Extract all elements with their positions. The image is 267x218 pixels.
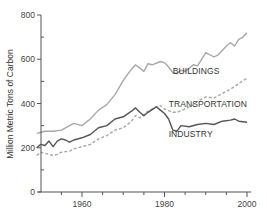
series-label-buildings: BUILDINGS xyxy=(173,66,220,76)
x-tick-label: 2000 xyxy=(238,199,257,209)
series-line-transportation xyxy=(37,78,247,155)
y-tick-label: 0 xyxy=(30,187,35,197)
y-tick-label: 800 xyxy=(21,10,35,20)
x-tick-label: 1960 xyxy=(73,199,92,209)
series-labels: BUILDINGSTRANSPORTATIONINDUSTRY xyxy=(169,66,247,139)
line-chart: 0200400600800196019802000 BUILDINGSTRANS… xyxy=(0,0,267,218)
axes: 0200400600800196019802000 xyxy=(21,10,257,209)
y-tick-label: 200 xyxy=(21,143,35,153)
x-tick-label: 1980 xyxy=(155,199,174,209)
series-line-industry xyxy=(37,107,247,148)
y-tick-label: 600 xyxy=(21,54,35,64)
series-label-transportation: TRANSPORTATION xyxy=(169,99,247,109)
series-label-industry: INDUSTRY xyxy=(169,129,213,139)
y-axis-label: Million Metric Tons of Carbon xyxy=(5,49,15,159)
series-layer xyxy=(37,33,247,156)
y-tick-label: 400 xyxy=(21,99,35,109)
series-line-buildings xyxy=(37,33,247,134)
